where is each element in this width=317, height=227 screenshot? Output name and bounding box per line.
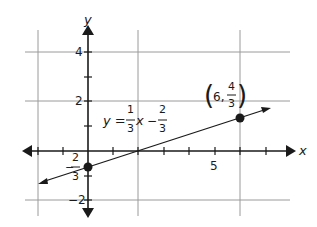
y-axis: y 4 2 −2 xyxy=(68,12,94,218)
coordinate-plane: x 5 y 4 2 −2 2 − 3 ( 6, xyxy=(0,0,317,227)
equation-label: y = 1 3 x − 2 3 xyxy=(102,103,167,135)
y-axis-label: y xyxy=(83,12,92,27)
equation-intercept-numerator: 2 xyxy=(159,103,166,116)
equation-slope-denominator: 3 xyxy=(127,122,134,135)
y-intercept-label: 2 − 3 xyxy=(65,151,80,183)
y-tick-label-neg2: −2 xyxy=(68,193,86,207)
paren-close: ) xyxy=(237,80,247,110)
equation-slope-numerator: 1 xyxy=(127,103,134,116)
equation-lhs: y = xyxy=(102,113,126,128)
line-left-arrow-icon xyxy=(38,178,48,184)
y-intercept-denominator: 3 xyxy=(72,170,79,183)
x-axis-label: x xyxy=(298,143,307,158)
point-label-6-4-3: ( 6, 4 3 ) xyxy=(204,80,247,110)
y-tick-label-4: 4 xyxy=(75,45,83,59)
equation-intercept-denominator: 3 xyxy=(159,122,166,135)
line-right-arrow-icon xyxy=(261,107,271,113)
point-y-numerator: 4 xyxy=(228,80,235,93)
equation-operator: − xyxy=(147,114,157,128)
point-x-value: 6, xyxy=(213,90,224,104)
x-tick-label-5: 5 xyxy=(210,159,218,173)
x-axis-left-arrow-icon xyxy=(22,145,32,157)
y-axis-down-arrow-icon xyxy=(82,208,94,218)
point-y-intercept xyxy=(84,163,93,172)
x-axis-right-arrow-icon xyxy=(286,145,296,157)
grid-lines xyxy=(25,30,290,216)
equation-variable: x xyxy=(135,113,144,128)
y-tick-label-2: 2 xyxy=(75,94,83,108)
point-y-denominator: 3 xyxy=(228,97,235,110)
point-6-4-3 xyxy=(236,114,245,123)
